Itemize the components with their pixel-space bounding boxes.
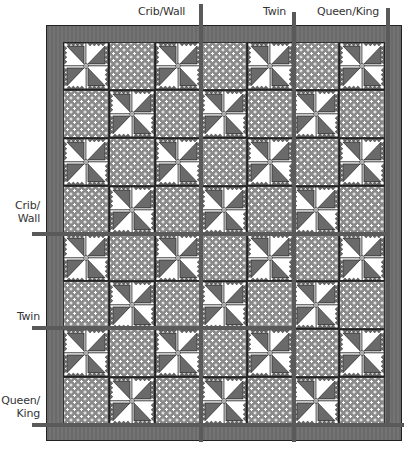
polka-dot-block (293, 138, 339, 186)
pinwheel-block (247, 329, 293, 377)
side-label-queen-king-line2: King (0, 407, 40, 420)
pinwheel-block (155, 138, 201, 186)
pinwheel-block (201, 90, 247, 138)
pinwheel-block (109, 281, 155, 329)
pinwheel-block (63, 42, 109, 90)
side-label-queen-king-line1: Queen/ (0, 394, 40, 407)
side-label-twin: Twin (0, 310, 40, 323)
polka-dot-block (339, 281, 385, 329)
pinwheel-block (109, 186, 155, 234)
polka-dot-block (109, 138, 155, 186)
polka-dot-block (109, 329, 155, 377)
pinwheel-block (109, 90, 155, 138)
polka-dot-block (155, 90, 201, 138)
side-label-queen-king: Queen/ King (0, 394, 40, 420)
twin-horizontal-marker (32, 326, 294, 330)
polka-dot-block (63, 281, 109, 329)
pinwheel-block (339, 138, 385, 186)
pinwheel-block (293, 281, 339, 329)
pinwheel-block (339, 234, 385, 282)
polka-dot-block (201, 138, 247, 186)
polka-dot-block (63, 90, 109, 138)
pinwheel-block (201, 377, 247, 425)
top-label-queen-king: Queen/King (317, 5, 379, 18)
top-label-crib-wall: Crib/Wall (138, 5, 185, 18)
queen-king-vertical-marker (386, 8, 390, 426)
pinwheel-block (293, 90, 339, 138)
polka-dot-block (155, 281, 201, 329)
pinwheel-block (247, 138, 293, 186)
pinwheel-block (109, 377, 155, 425)
queen-king-horizontal-marker (32, 423, 404, 427)
polka-dot-block (155, 377, 201, 425)
polka-dot-block (63, 186, 109, 234)
polka-dot-block (201, 42, 247, 90)
polka-dot-block (339, 377, 385, 425)
polka-dot-block (293, 329, 339, 377)
polka-dot-block (201, 234, 247, 282)
polka-dot-block (339, 90, 385, 138)
polka-dot-block (247, 377, 293, 425)
pinwheel-block (201, 186, 247, 234)
pinwheel-block (339, 329, 385, 377)
polka-dot-block (109, 234, 155, 282)
pinwheel-block (201, 281, 247, 329)
polka-dot-block (293, 42, 339, 90)
pinwheel-block (63, 138, 109, 186)
pinwheel-block (247, 42, 293, 90)
polka-dot-block (247, 186, 293, 234)
polka-dot-block (247, 281, 293, 329)
side-label-crib-wall-line1: Crib/ (0, 199, 40, 212)
polka-dot-block (63, 377, 109, 425)
pinwheel-block (247, 234, 293, 282)
polka-dot-block (155, 186, 201, 234)
twin-vertical-marker (292, 12, 296, 442)
pinwheel-block (155, 234, 201, 282)
polka-dot-block (109, 42, 155, 90)
polka-dot-block (293, 234, 339, 282)
top-label-twin: Twin (263, 5, 286, 18)
pinwheel-block (293, 186, 339, 234)
crib-wall-horizontal-marker (32, 232, 388, 236)
pinwheel-block (63, 234, 109, 282)
polka-dot-block (247, 90, 293, 138)
pinwheel-block (293, 377, 339, 425)
polka-dot-block (201, 329, 247, 377)
side-label-twin-line1: Twin (0, 310, 40, 323)
polka-dot-block (339, 186, 385, 234)
pinwheel-block (155, 42, 201, 90)
pinwheel-block (155, 329, 201, 377)
crib-wall-vertical-marker (199, 4, 203, 442)
side-label-crib-wall-line2: Wall (0, 212, 40, 225)
pinwheel-block (339, 42, 385, 90)
side-label-crib-wall: Crib/ Wall (0, 199, 40, 225)
pinwheel-block (63, 329, 109, 377)
